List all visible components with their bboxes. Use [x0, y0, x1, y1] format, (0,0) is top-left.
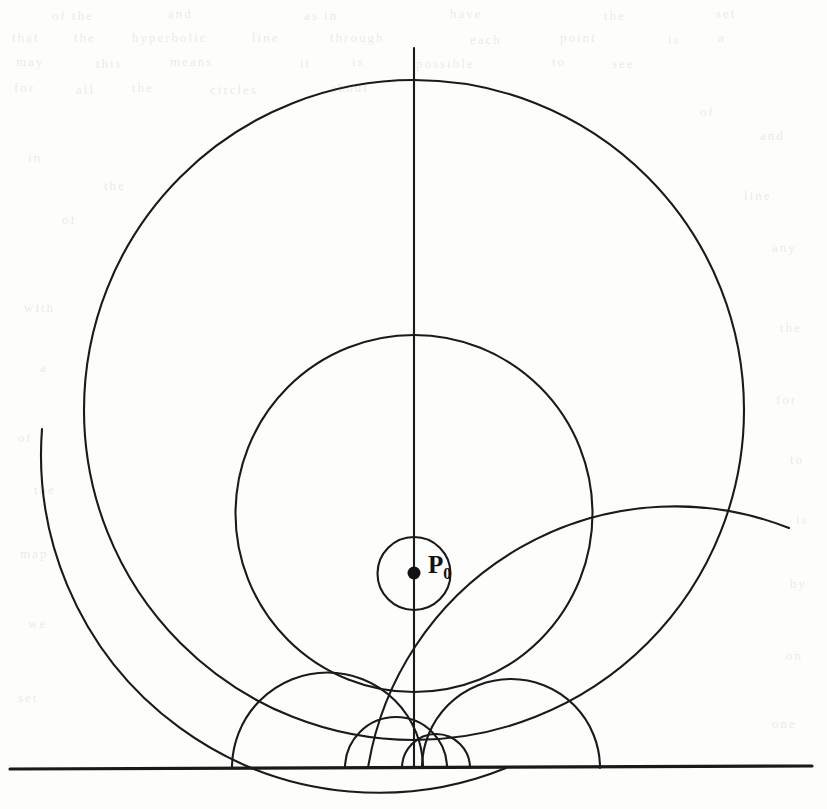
- geodesic-ray-mid-left: [232, 673, 423, 768]
- point-label-p0: P0: [428, 551, 451, 582]
- center-point-marker: [408, 567, 421, 580]
- point-label-letter: P: [428, 551, 443, 578]
- point-label-subscript: 0: [443, 565, 451, 582]
- geodesic-ray-steep-left: [345, 717, 447, 768]
- figure-canvas: of theandas inhavethesetthatthehyperboli…: [0, 0, 827, 809]
- geodesic-ray-mid-right: [422, 679, 600, 768]
- hyperbolic-polar-grid-diagram: P0: [0, 0, 827, 809]
- ideal-boundary-line: [10, 766, 812, 769]
